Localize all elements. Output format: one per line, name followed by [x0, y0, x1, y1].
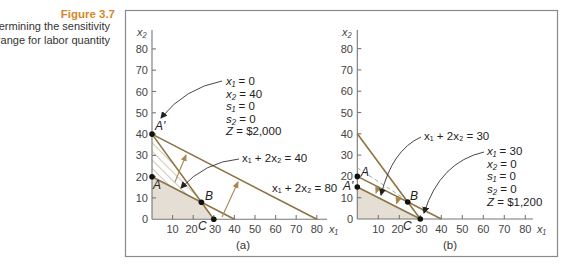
y-tick: 80 — [136, 43, 148, 55]
y-tick: 30 — [341, 149, 353, 161]
svg-text:Z = $1,200: Z = $1,200 — [486, 196, 542, 208]
line-label-30: x₁ + 2x₂ = 30 — [424, 130, 489, 142]
x-tick: 70 — [498, 223, 510, 235]
y-axis-label: x₂ — [341, 26, 353, 38]
point-label: A' — [342, 179, 354, 193]
y-tick: 60 — [341, 85, 353, 97]
point-a-prime — [149, 131, 155, 137]
x-axis-label: x₁ — [328, 223, 339, 235]
figure-number: Figure 3.7 — [61, 8, 115, 20]
figure-caption: Figure 3.7 termining the sensitivity ran… — [0, 8, 115, 46]
svg-text:Z = $2,000: Z = $2,000 — [225, 125, 281, 137]
y-axis-label: x₂ — [136, 26, 148, 38]
point-a — [355, 174, 361, 180]
point-label: C — [403, 219, 412, 233]
y-tick: 30 — [136, 149, 148, 161]
svg-text:s₁ = 0: s₁ = 0 — [487, 170, 516, 182]
x-tick: 30 — [415, 223, 427, 235]
figure-canvas: Figure 3.7 termining the sensitivity ran… — [0, 0, 577, 268]
x-tick: 60 — [477, 223, 489, 235]
x-tick: 20 — [391, 223, 403, 235]
svg-text:x₁ = 30: x₁ = 30 — [486, 145, 522, 157]
x-tick: 40 — [435, 223, 447, 235]
svg-text:s₁ = 0: s₁ = 0 — [226, 100, 255, 112]
y-tick: 70 — [341, 64, 353, 76]
point-label: B — [205, 189, 213, 203]
y-tick: 40 — [136, 128, 148, 140]
svg-text:x₂ = 40: x₂ = 40 — [225, 88, 262, 100]
line-label-40: x₁ + 2x₂ = 40 — [242, 152, 307, 164]
x-tick: 40 — [228, 223, 240, 235]
x-tick: 30 — [209, 223, 221, 235]
figure-caption-line-1: termining the sensitivity — [0, 20, 110, 32]
svg-text:x₁ = 0: x₁ = 0 — [225, 75, 255, 87]
x-tick: 50 — [249, 223, 261, 235]
y-tick: 10 — [136, 192, 148, 204]
x-tick: 80 — [311, 223, 323, 235]
x-tick: 80 — [519, 223, 531, 235]
y-tick-labels: 0 10 20 30 40 50 60 70 80 — [136, 43, 148, 225]
point-c — [211, 217, 217, 223]
x-tick: 50 — [456, 223, 468, 235]
point-label: A' — [154, 119, 166, 133]
x-tick: 10 — [372, 223, 384, 235]
y-tick: 50 — [136, 107, 148, 119]
y-tick: 80 — [341, 43, 353, 55]
panel-caption-a: (a) — [236, 239, 250, 251]
y-tick: 0 — [347, 213, 353, 225]
line-label-80: x₁ + 2x₂ = 80 — [272, 182, 337, 194]
point-c — [418, 216, 424, 222]
y-tick: 40 — [341, 128, 353, 140]
point-label: A — [360, 165, 369, 179]
y-tick: 10 — [341, 192, 353, 204]
point-label: A — [152, 178, 161, 192]
point-b — [199, 200, 205, 206]
x-tick: 70 — [290, 223, 302, 235]
figure-caption-line-2: range for labor quantity — [0, 34, 110, 46]
x-axis-label: x₁ — [536, 223, 547, 235]
y-tick: 70 — [136, 64, 148, 76]
y-tick: 50 — [341, 107, 353, 119]
point-a-prime — [355, 184, 361, 190]
y-tick-labels: 0 10 20 30 40 50 60 70 80 — [341, 43, 353, 225]
y-tick: 0 — [142, 213, 148, 225]
y-tick: 20 — [136, 171, 148, 183]
panel-caption-b: (b) — [443, 239, 457, 251]
x-tick: 60 — [269, 223, 281, 235]
svg-text:s₂ = 0: s₂ = 0 — [226, 113, 256, 125]
svg-text:x₂ = 0: x₂ = 0 — [486, 158, 517, 170]
y-tick: 60 — [136, 86, 148, 98]
svg-text:s₂ = 0: s₂ = 0 — [487, 183, 517, 195]
x-tick: 10 — [166, 223, 178, 235]
point-label: C — [198, 219, 207, 233]
point-label: B — [410, 189, 418, 203]
x-tick: 20 — [185, 223, 197, 235]
